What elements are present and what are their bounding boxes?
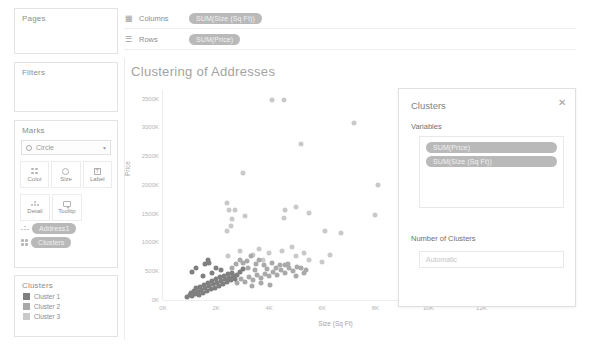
scatter-point[interactable]	[248, 254, 253, 259]
tooltip-icon	[63, 201, 71, 207]
scatter-point[interactable]	[293, 273, 298, 278]
filters-card-title: Filters	[15, 63, 117, 77]
pill-label: Address1	[32, 223, 76, 234]
rows-icon: ☰	[124, 35, 133, 44]
scatter-point[interactable]	[243, 279, 248, 284]
scatter-point[interactable]	[283, 263, 288, 268]
scatter-point[interactable]	[267, 250, 272, 255]
circle-icon	[26, 145, 32, 151]
y-axis-tick-label: 0K	[152, 297, 159, 303]
columns-shelf[interactable]: ▦ Columns SUM(Size (Sq Ft))	[124, 8, 576, 29]
scatter-point[interactable]	[375, 182, 380, 187]
color-button[interactable]: Color	[20, 161, 49, 188]
scatter-point[interactable]	[226, 254, 231, 259]
scatter-point[interactable]	[210, 270, 215, 275]
y-axis-tick-label: 3000K	[142, 124, 159, 130]
legend-item[interactable]: Cluster 2	[23, 303, 117, 310]
scatter-point[interactable]	[244, 258, 249, 263]
scatter-point[interactable]	[224, 228, 229, 233]
x-axis-tick-label: 2K	[212, 305, 219, 311]
marks-pill-address1[interactable]: Address1	[21, 223, 117, 234]
scatter-point[interactable]	[306, 257, 311, 262]
scatter-point[interactable]	[200, 273, 205, 278]
tooltip-button[interactable]: Tooltip	[52, 194, 82, 221]
rows-shelf[interactable]: ☰ Rows SUM(Price)	[124, 29, 576, 50]
x-axis-tick-label: 0K	[159, 305, 166, 311]
scatter-point[interactable]	[232, 208, 237, 213]
scatter-point[interactable]	[252, 268, 257, 273]
columns-shelf-pill[interactable]: SUM(Size (Sq Ft))	[189, 13, 262, 24]
scatter-point[interactable]	[219, 268, 224, 273]
pages-card[interactable]: Pages	[14, 8, 118, 54]
scatter-point[interactable]	[233, 262, 238, 267]
tableau-worksheet: Pages Filters Marks Circle ▾ Color Size …	[0, 0, 589, 364]
scatter-point[interactable]	[273, 265, 278, 270]
scatter-point[interactable]	[227, 208, 232, 213]
scatter-point[interactable]	[249, 284, 254, 289]
scatter-point[interactable]	[373, 212, 378, 217]
scatter-point[interactable]	[283, 270, 288, 275]
scatter-point[interactable]	[264, 266, 269, 271]
columns-icon: ▦	[124, 14, 133, 23]
scatter-point[interactable]	[245, 265, 250, 270]
size-button[interactable]: Size	[51, 161, 80, 188]
scatter-point[interactable]	[224, 201, 229, 206]
scatter-point[interactable]	[240, 266, 245, 271]
close-icon[interactable]: ✕	[558, 98, 566, 108]
filters-card[interactable]: Filters	[14, 62, 118, 112]
scatter-point[interactable]	[352, 120, 357, 125]
number-of-clusters-input[interactable]: Automatic	[419, 251, 564, 268]
scatter-point[interactable]	[253, 262, 258, 267]
legend-item[interactable]: Cluster 1	[23, 293, 117, 300]
scatter-point[interactable]	[251, 277, 256, 282]
columns-shelf-label: Columns	[139, 14, 183, 23]
label-button[interactable]: T Label	[83, 161, 112, 188]
number-of-clusters-placeholder: Automatic	[426, 256, 457, 263]
scatter-point[interactable]	[207, 261, 212, 266]
scatter-point[interactable]	[320, 260, 325, 265]
scatter-point[interactable]	[194, 265, 199, 270]
marks-buttons-row-2: Detail Tooltip	[19, 194, 113, 221]
scatter-point[interactable]	[281, 215, 286, 220]
mark-type-dropdown[interactable]: Circle ▾	[21, 140, 111, 155]
scatter-point[interactable]	[293, 204, 298, 209]
legend-item[interactable]: Cluster 3	[23, 313, 117, 320]
variable-pill[interactable]: SUM(Price)	[426, 142, 557, 153]
variable-pill[interactable]: SUM(Size (Sq Ft))	[426, 156, 557, 167]
scatter-point[interactable]	[293, 254, 298, 259]
scatter-point[interactable]	[190, 270, 195, 275]
marks-pill-clusters[interactable]: Clusters	[21, 237, 117, 248]
scatter-point[interactable]	[214, 265, 219, 270]
scatter-point[interactable]	[283, 208, 288, 213]
scatter-point[interactable]	[280, 248, 285, 253]
scatter-point[interactable]	[256, 257, 261, 262]
scatter-point[interactable]	[275, 272, 280, 277]
scatter-point[interactable]	[328, 253, 333, 258]
legend-item-label: Cluster 3	[34, 313, 60, 320]
scatter-point[interactable]	[289, 245, 294, 250]
scatter-point[interactable]	[243, 214, 248, 219]
scatter-point[interactable]	[306, 210, 311, 215]
scatter-point[interactable]	[299, 141, 304, 146]
variables-dropzone[interactable]: SUM(Price)SUM(Size (Sq Ft))	[419, 136, 564, 208]
scatter-point[interactable]	[237, 248, 242, 253]
clusters-dialog[interactable]: Clusters ✕ Variables SUM(Price)SUM(Size …	[398, 88, 576, 307]
scatter-point[interactable]	[301, 270, 306, 275]
scatter-point[interactable]	[259, 280, 264, 285]
scatter-point[interactable]	[267, 274, 272, 279]
detail-button[interactable]: Detail	[20, 194, 50, 221]
scatter-point[interactable]	[256, 247, 261, 252]
rows-shelf-pill[interactable]: SUM(Price)	[189, 34, 240, 45]
scatter-point[interactable]	[269, 97, 274, 102]
scatter-point[interactable]	[228, 224, 233, 229]
scatter-point[interactable]	[338, 231, 343, 236]
scatter-point[interactable]	[240, 171, 245, 176]
scatter-point[interactable]	[268, 283, 273, 288]
scatter-point[interactable]	[281, 97, 286, 102]
scatter-point[interactable]	[301, 250, 306, 255]
y-axis-tick-label: 1500K	[142, 211, 159, 217]
scatter-point[interactable]	[230, 217, 235, 222]
y-axis-tick-label: 2000K	[142, 182, 159, 188]
marks-card: Marks Circle ▾ Color Size T Label	[14, 120, 118, 268]
scatter-point[interactable]	[322, 228, 327, 233]
